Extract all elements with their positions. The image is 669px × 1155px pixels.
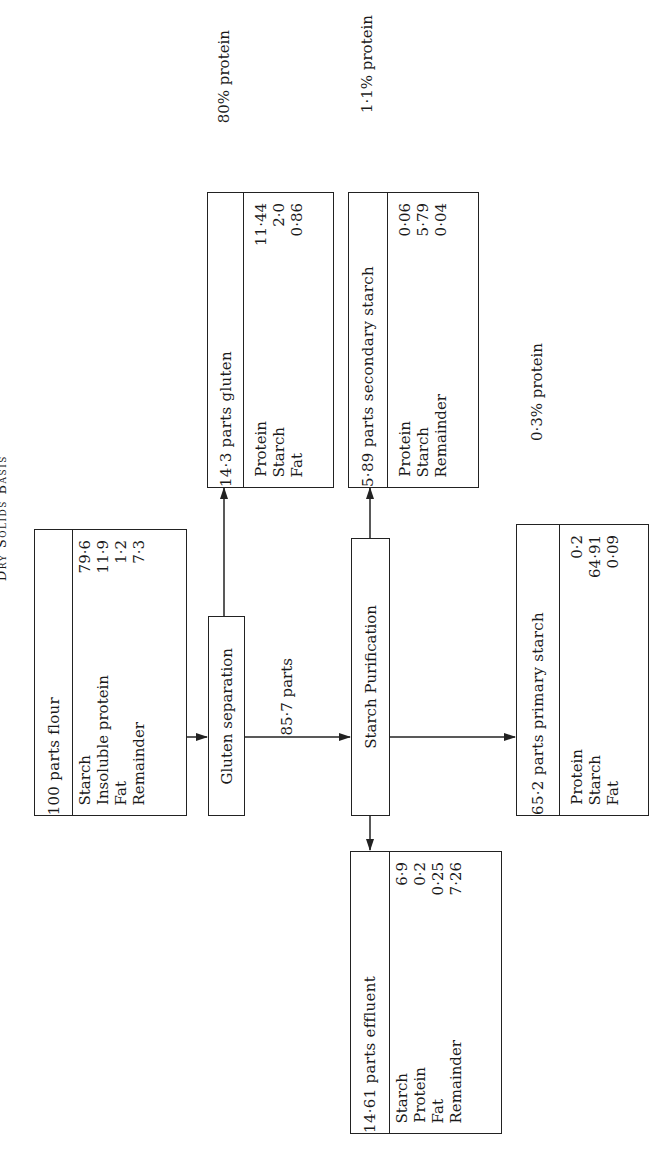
flow-label-85-7-parts: 85·7 parts: [278, 658, 296, 736]
composition-row: Fat0·86: [288, 193, 306, 487]
composition-row: Fat0·25: [429, 852, 447, 1133]
node-primary-starch-header: 65·2 parts primary starch: [517, 525, 560, 815]
composition-row: Starch64·91: [586, 525, 604, 815]
composition-row: Starch6·9: [393, 852, 411, 1133]
composition-row: Protein0·2: [568, 525, 586, 815]
composition-row: Protein11·44: [252, 193, 270, 487]
process-gluten-separation: Gluten separation: [208, 616, 245, 816]
composition-row: Protein0·2: [411, 852, 429, 1133]
node-effluent-header: 14·61 parts effluent: [351, 852, 390, 1133]
composition-row: Starch2·0: [270, 193, 288, 487]
composition-row: Fat1·2: [112, 530, 130, 815]
node-flour-header: 100 parts flour: [35, 530, 73, 815]
node-effluent: 14·61 parts effluent Starch6·9 Protein0·…: [350, 851, 502, 1134]
node-gluten: 14·3 parts gluten Protein11·44 Starch2·0…: [207, 192, 334, 488]
composition-row: Insoluble protein11·9: [94, 530, 112, 815]
node-secondary-starch-header: 5·89 parts secondary starch: [349, 193, 388, 487]
node-primary-starch: 65·2 parts primary starch Protein0·2 Sta…: [516, 524, 649, 816]
composition-row: Starch5·79: [414, 193, 432, 487]
composition-row: Fat0·09: [604, 525, 622, 815]
composition-row: Protein0·06: [396, 193, 414, 487]
node-gluten-header: 14·3 parts gluten: [208, 193, 244, 487]
node-secondary-starch: 5·89 parts secondary starch Protein0·06 …: [348, 192, 479, 488]
process-starch-purification: Starch Purification: [351, 538, 390, 816]
secondary-starch-protein-note: 1·1% protein: [358, 15, 376, 113]
node-flour: 100 parts flour Starch79·6 Insoluble pro…: [34, 529, 187, 816]
composition-row: Remainder7·3: [130, 530, 148, 815]
composition-row: Starch79·6: [76, 530, 94, 815]
gluten-protein-note: 80% protein: [215, 30, 233, 123]
composition-row: Remainder0·04: [432, 193, 450, 487]
primary-starch-protein-note: 0·3% protein: [528, 343, 546, 441]
composition-row: Remainder7·26: [447, 852, 465, 1133]
